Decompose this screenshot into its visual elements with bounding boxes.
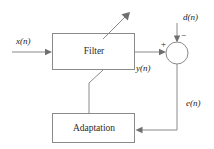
plus-sign-label: +: [161, 39, 166, 49]
diagram-canvas: Filter Adaptation x(n) d(n) y(n) e(n) + …: [0, 0, 214, 149]
error-arrowhead: [136, 127, 143, 133]
signal-label-error: e(n): [186, 98, 201, 108]
signal-label-output: y(n): [135, 63, 151, 73]
error-wire: [136, 64, 178, 133]
output-arrowhead: [159, 49, 166, 55]
minus-sign-label: −: [181, 30, 186, 40]
adaptation-to-filter-link: [89, 70, 103, 113]
adaptation-block-label: Adaptation: [73, 123, 115, 133]
signal-label-desired: d(n): [183, 12, 198, 22]
input-arrowhead: [45, 49, 52, 55]
summing-junction[interactable]: [166, 42, 188, 64]
filter-output-wire: [135, 49, 166, 55]
desired-arrowhead: [174, 36, 180, 43]
desired-wire: [174, 23, 180, 43]
filter-block-label: Filter: [84, 46, 105, 56]
input-wire: [12, 49, 52, 55]
block-diagram: Filter Adaptation x(n) d(n) y(n) e(n) + …: [0, 0, 214, 149]
signal-label-input: x(n): [15, 36, 31, 46]
